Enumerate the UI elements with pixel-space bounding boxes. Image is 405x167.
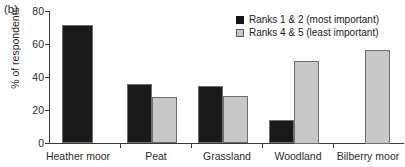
figure-panel-b: (b) % of respondents Ranks 1 & 2 (most i… [0,0,405,167]
bar-woodland-ranks-4-5 [294,61,319,144]
bar-bilberry-moor-ranks-4-5 [365,50,390,144]
x-category-label-peat: Peat [120,150,192,162]
bar-peat-ranks-1-2 [127,84,152,143]
y-tick-label-80: 80 [22,6,44,16]
x-category-label-grassland: Grassland [191,150,263,162]
y-tick-label-20: 20 [22,105,44,115]
bar-peat-ranks-4-5 [152,97,177,143]
bar-grassland-ranks-4-5 [223,96,248,144]
x-category-label-woodland: Woodland [262,150,334,162]
y-tick-label-40: 40 [22,72,44,82]
bar-heather-moor-ranks-1-2 [62,25,93,144]
y-tick-label-0: 0 [22,138,44,148]
y-tick-label-60: 60 [22,39,44,49]
bar-grassland-ranks-1-2 [198,86,223,144]
x-category-label-heather-moor: Heather moor [42,150,114,162]
bar-woodland-ranks-1-2 [269,120,294,143]
x-category-label-bilberry-moor: Bilberry moor [331,150,405,162]
